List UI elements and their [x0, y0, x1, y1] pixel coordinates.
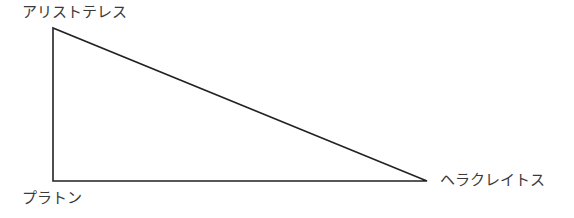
- label-aristotle: アリストテレス: [22, 3, 127, 21]
- label-plato: プラトン: [22, 189, 82, 207]
- triangle-shape: [53, 28, 427, 181]
- label-heraclitus: ヘラクレイトス: [440, 171, 545, 189]
